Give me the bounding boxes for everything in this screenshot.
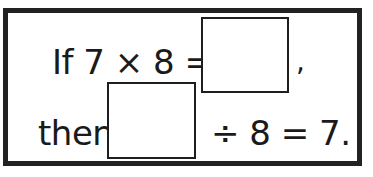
line2-suffix-text: ÷ 8 = 7. (211, 113, 350, 153)
line1-comma-text: , (296, 42, 304, 82)
line2-prefix-text: then (38, 113, 113, 153)
line1-prefix-text: If 7 × 8 = (52, 42, 212, 82)
answer-box-dividend[interactable] (107, 82, 196, 159)
answer-box-product[interactable] (201, 17, 289, 93)
